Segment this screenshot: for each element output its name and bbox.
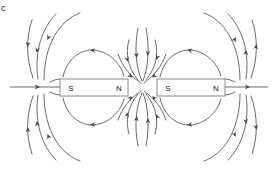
field-arrow: [45, 133, 52, 140]
field-line: [63, 98, 124, 125]
field-line: [225, 79, 235, 82]
field-line: [228, 95, 247, 160]
axis-lines: [10, 85, 268, 90]
field-arrow: [34, 121, 40, 127]
field-line: [251, 20, 256, 78]
panel-label: c: [1, 3, 6, 13]
field-line: [37, 95, 56, 160]
field-arrow: [34, 47, 40, 53]
left-magnet-south-label: S: [68, 84, 73, 93]
field-arrow: [45, 34, 52, 41]
field-line: [204, 94, 240, 161]
field-arrow: [134, 53, 139, 59]
field-line: [44, 13, 80, 80]
left-magnet-north-label: N: [116, 84, 122, 93]
field-line: [204, 13, 240, 80]
field-arrow: [150, 73, 157, 80]
left-magnet: S N: [60, 79, 128, 96]
field-arrow: [134, 116, 139, 122]
field-arrow: [150, 94, 157, 101]
right-magnet-north-label: N: [213, 84, 219, 93]
field-line: [50, 79, 60, 82]
field-line: [63, 50, 124, 77]
field-line: [28, 20, 33, 78]
field-line: [228, 14, 247, 79]
field-line: [225, 92, 235, 95]
field-line-diagram: S N S N c: [0, 0, 275, 177]
field-line: [50, 92, 60, 95]
right-magnet-south-label: S: [165, 84, 170, 93]
field-line: [28, 96, 33, 154]
field-line: [251, 96, 256, 154]
right-magnet: S N: [157, 79, 225, 96]
field-line: [160, 50, 221, 77]
magnetic-field-figure: S N S N c: [0, 0, 275, 177]
field-line: [160, 98, 221, 125]
field-line: [44, 94, 80, 161]
field-line: [37, 14, 56, 79]
